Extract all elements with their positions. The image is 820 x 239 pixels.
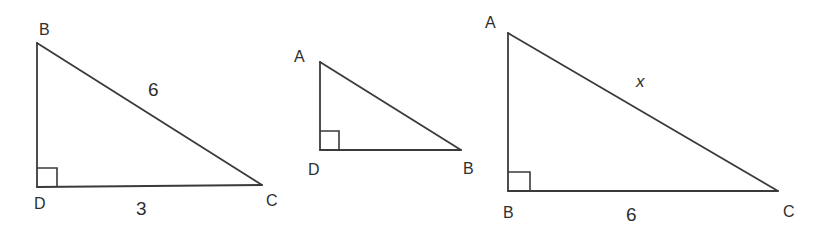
vertex-label-b: B — [39, 21, 50, 38]
triangle-abc: A B C x 6 — [485, 14, 795, 225]
vertex-label-d: D — [308, 161, 320, 178]
vertex-label-b: B — [463, 160, 474, 177]
right-angle-marker-d — [320, 131, 339, 150]
similar-triangles-diagram: B D C 6 3 A D B A B C x 6 — [0, 0, 820, 239]
vertex-label-c: C — [266, 192, 278, 209]
triangle-adb: A D B — [294, 48, 474, 178]
side-length-bc: 6 — [148, 79, 159, 100]
vertex-label-a: A — [485, 14, 496, 31]
right-angle-marker-d — [37, 168, 57, 187]
vertex-label-a: A — [294, 48, 305, 65]
triangle-bdc: B D C 6 3 — [34, 21, 278, 219]
side-length-ac: x — [635, 72, 645, 91]
vertex-label-b: B — [503, 204, 514, 221]
vertex-label-d: D — [34, 195, 46, 212]
side-bc — [37, 43, 262, 185]
side-length-bc: 6 — [626, 204, 637, 225]
vertex-label-c: C — [783, 203, 795, 220]
right-angle-marker-b — [508, 172, 530, 191]
side-length-dc: 3 — [136, 198, 147, 219]
side-ac — [508, 33, 778, 191]
diagram-canvas: B D C 6 3 A D B A B C x 6 — [0, 0, 820, 239]
side-ab — [320, 62, 461, 150]
side-dc — [37, 185, 262, 187]
